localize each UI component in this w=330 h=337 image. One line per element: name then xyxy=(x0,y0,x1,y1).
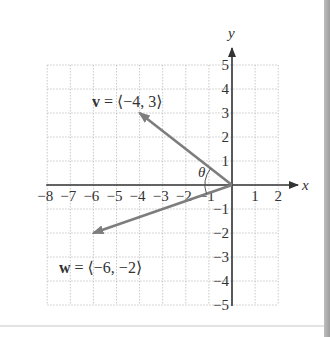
y-tick-label: −4 xyxy=(213,273,229,289)
x-tick-label: −3 xyxy=(153,188,169,204)
y-tick-label: 4 xyxy=(222,81,230,97)
x-tick-label: −4 xyxy=(130,188,146,204)
x-tick-label: −7 xyxy=(60,188,76,204)
y-tick-label: −5 xyxy=(213,297,229,313)
vector-label-v: v = ⟨−4, 3⟩ xyxy=(92,93,163,110)
x-tick-label: 1 xyxy=(251,188,259,204)
x-axis-label: x xyxy=(301,177,309,193)
vector-label-w: w = ⟨−6, −2⟩ xyxy=(59,259,142,276)
y-axis-label: y xyxy=(226,25,235,41)
x-tick-label: −5 xyxy=(107,188,123,204)
y-tick-label: −1 xyxy=(213,201,229,217)
coordinate-plane: xy −8−7−6−5−4−3−2−11254321−1−2−3−4−5 θ v… xyxy=(0,0,330,337)
y-tick-label: 1 xyxy=(222,153,230,169)
theta-label: θ xyxy=(198,164,206,180)
x-tick-label: 2 xyxy=(274,188,282,204)
y-tick-label: −2 xyxy=(213,225,229,241)
bottom-separator xyxy=(0,325,324,327)
right-scrollbar-edge xyxy=(324,0,330,337)
y-tick-label: 3 xyxy=(222,105,230,121)
x-tick-label: −6 xyxy=(83,188,99,204)
y-tick-label: −3 xyxy=(213,249,229,265)
y-tick-label: 2 xyxy=(222,129,230,145)
vector-angle-diagram: xy −8−7−6−5−4−3−2−11254321−1−2−3−4−5 θ v… xyxy=(0,0,330,337)
y-tick-label: 5 xyxy=(222,57,230,73)
x-tick-label: −8 xyxy=(37,188,53,204)
